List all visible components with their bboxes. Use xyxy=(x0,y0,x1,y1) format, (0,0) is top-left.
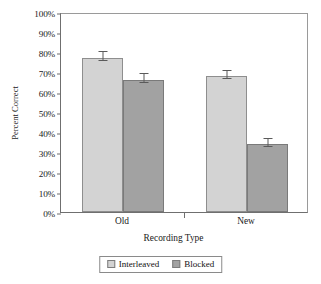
error-bar-line xyxy=(102,51,103,60)
y-axis-tick-mark xyxy=(57,134,61,135)
y-axis-tick-mark xyxy=(57,114,61,115)
error-bar-line xyxy=(143,73,144,82)
error-bar-cap-upper xyxy=(263,138,272,139)
legend-item-interleaved[interactable]: Interleaved xyxy=(107,259,159,269)
bar-new-blocked xyxy=(247,144,288,212)
x-axis-tick-label-new: New xyxy=(237,216,255,226)
error-bar-line xyxy=(226,70,227,78)
y-axis-tick-mark xyxy=(57,174,61,175)
legend-item-blocked[interactable]: Blocked xyxy=(172,259,214,269)
error-bar-cap-lower xyxy=(222,78,231,79)
legend-label-blocked: Blocked xyxy=(184,259,214,269)
error-bar-cap-upper xyxy=(222,70,231,71)
error-bar-cap-lower xyxy=(263,146,272,147)
y-axis-tick-mark xyxy=(57,154,61,155)
y-axis-tick-mark xyxy=(57,54,61,55)
y-axis-tick-mark xyxy=(57,34,61,35)
y-axis-tick-mark xyxy=(57,14,61,15)
error-bar-cap-lower xyxy=(98,60,107,61)
x-axis-title: Recording Type xyxy=(0,233,321,243)
legend-label-interleaved: Interleaved xyxy=(119,259,159,269)
error-bar-cap-upper xyxy=(98,51,107,52)
x-axis-group-separator xyxy=(184,213,185,218)
y-axis-tick-mark xyxy=(57,214,61,215)
y-axis-tick-mark xyxy=(57,194,61,195)
error-bar-cap-lower xyxy=(139,82,148,83)
bar-old-interleaved xyxy=(82,58,123,212)
y-axis-title: Percent Correct xyxy=(10,86,20,140)
error-bar-cap-upper xyxy=(139,73,148,74)
y-axis-tick-mark xyxy=(57,94,61,95)
bar-new-interleaved xyxy=(206,76,247,212)
plot-area: 0%10%20%30%40%50%60%70%80%90%100% xyxy=(60,13,308,213)
y-axis-tick-mark xyxy=(57,74,61,75)
legend-swatch-icon-interleaved xyxy=(107,260,115,268)
error-bar-line xyxy=(267,138,268,146)
chart-legend: Interleaved Blocked xyxy=(99,256,222,273)
bar-old-blocked xyxy=(123,80,164,212)
legend-swatch-icon-blocked xyxy=(172,260,180,268)
chart-figure: Percent Correct 0%10%20%30%40%50%60%70%8… xyxy=(0,0,321,284)
x-axis-tick-label-old: Old xyxy=(115,216,129,226)
